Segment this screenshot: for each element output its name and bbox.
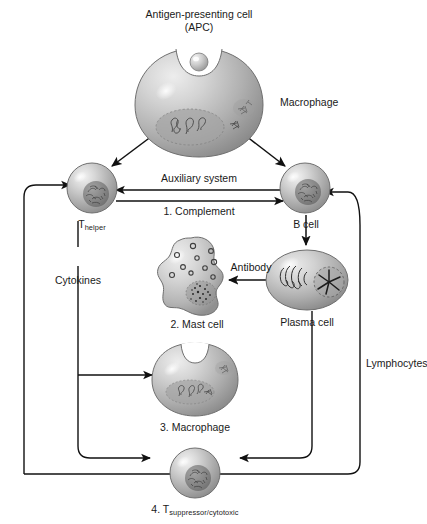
label-t-suppressor-sub: suppressor/cytotoxic	[169, 508, 238, 517]
cell-macrophage-effector	[152, 342, 238, 416]
connector-apc-to-thelper	[112, 136, 152, 166]
cell-apc-macrophage	[135, 46, 263, 157]
figure-title-line2: (APC)	[99, 21, 299, 34]
label-t-suppressor: 4. Tsuppressor/cytotoxic	[151, 503, 238, 519]
label-antibody: Antibody	[231, 261, 272, 273]
label-plasma-cell: Plasma cell	[280, 316, 334, 328]
connector-cytokines-to-tsuppressor	[78, 266, 150, 458]
label-cytokines: Cytokines	[55, 274, 101, 286]
label-macrophage-effector: 3. Macrophage	[160, 421, 230, 433]
label-t-suppressor-prefix: 4. T	[151, 503, 169, 515]
cell-t-helper	[67, 163, 117, 213]
cell-mast	[158, 237, 224, 315]
label-lymphocytes: Lymphocytes	[366, 357, 427, 369]
connector-feedback-left-to-thelper	[24, 185, 70, 474]
label-t-helper-sub: helper	[85, 223, 106, 232]
connector-lymphocytes-right-to-bcell	[325, 192, 360, 225]
label-t-helper: Thelper	[78, 218, 106, 234]
figure-title: Antigen-presenting cell (APC)	[99, 8, 299, 34]
label-macrophage-top: Macrophage	[280, 96, 338, 108]
cell-b-cell	[280, 163, 330, 213]
cell-t-suppressor	[170, 448, 220, 498]
connector-plasma-to-tsuppressor	[240, 311, 312, 458]
cell-plasma	[266, 250, 348, 310]
label-auxiliary-system: Auxiliary system	[161, 172, 237, 184]
label-mast-cell: 2. Mast cell	[170, 318, 223, 330]
label-b-cell: B cell	[293, 218, 319, 230]
label-complement: 1. Complement	[163, 205, 234, 217]
figure-title-line1: Antigen-presenting cell	[99, 8, 299, 21]
connector-apc-to-bcell	[246, 136, 285, 166]
antigen-particle	[190, 53, 208, 71]
